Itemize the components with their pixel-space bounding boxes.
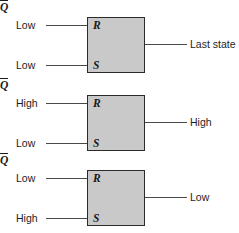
input-s-label-2: Low (16, 138, 35, 149)
pin-label-s-2: S (93, 138, 99, 150)
pin-label-qbar-3: Q (0, 153, 239, 166)
input-r-wire-2 (46, 103, 87, 104)
pin-label-qbar-2: Q (0, 78, 239, 91)
pin-label-s-3: S (93, 213, 99, 225)
input-s-wire-3 (46, 218, 87, 219)
pin-label-qbar-1: Q (0, 0, 239, 13)
input-r-wire-1 (46, 25, 87, 26)
input-s-label-3: High (16, 213, 38, 224)
pin-label-s-1: S (93, 60, 99, 72)
latch-block-2: High Low R S Q High (0, 78, 239, 156)
output-label-2: High (190, 117, 212, 128)
output-wire-1 (145, 44, 187, 45)
qbar-text-3: Q (0, 153, 8, 166)
input-r-label-3: Low (16, 173, 35, 184)
input-s-label-1: Low (16, 60, 35, 71)
qbar-text-1: Q (0, 0, 8, 13)
output-label-3: Low (190, 192, 209, 203)
pin-label-r-1: R (93, 20, 101, 32)
input-s-wire-1 (46, 65, 87, 66)
pin-label-r-3: R (93, 173, 101, 185)
input-r-wire-3 (46, 178, 87, 179)
latch-block-3: Low High R S Q Low (0, 153, 239, 231)
output-wire-3 (145, 197, 187, 198)
output-wire-2 (145, 122, 187, 123)
sr-latch-diagram: Low Low R S Q Last state High Low R S Q … (0, 0, 239, 233)
pin-label-r-2: R (93, 98, 101, 110)
qbar-text-2: Q (0, 78, 8, 91)
input-r-label-2: High (16, 98, 38, 109)
input-s-wire-2 (46, 143, 87, 144)
output-label-1: Last state (190, 39, 236, 50)
input-r-label-1: Low (16, 20, 35, 31)
latch-block-1: Low Low R S Q Last state (0, 0, 239, 78)
